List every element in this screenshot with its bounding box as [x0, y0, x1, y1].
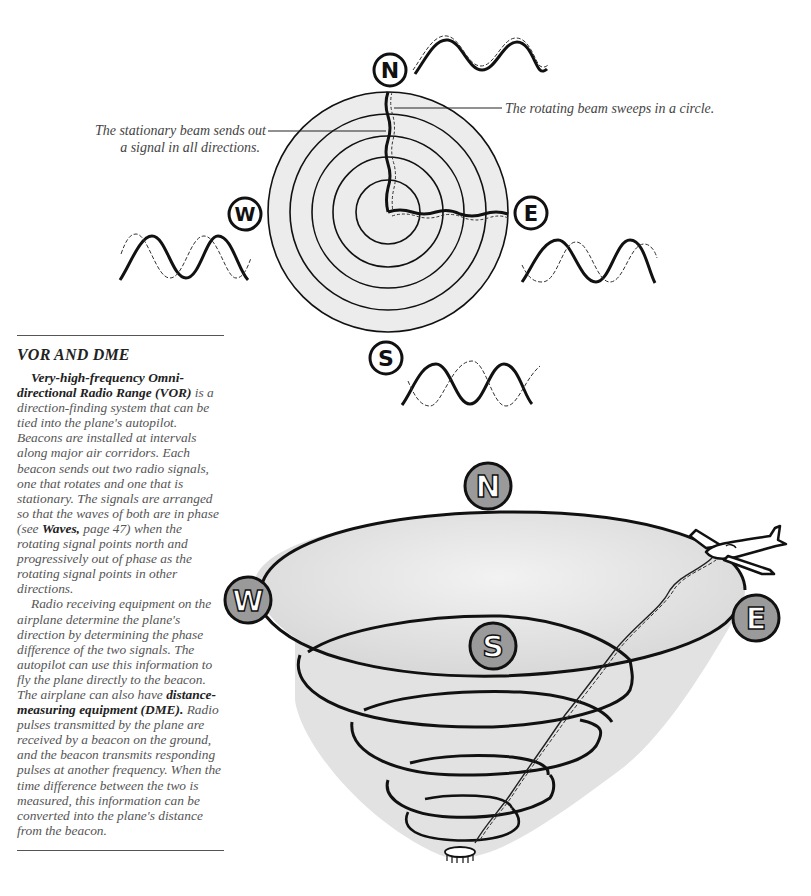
south-wave-out-of-phase: [402, 361, 540, 406]
dme-paragraph: Radio receiving equipment on the airplan…: [17, 596, 224, 838]
cone-south-label: S: [482, 629, 504, 664]
bottom-rule: [17, 850, 224, 851]
stationary-beam-caption: The stationary beam sends out a signal i…: [40, 122, 266, 156]
east-wave-out-of-phase: [522, 240, 657, 283]
west-wave-out-of-phase: [120, 234, 251, 280]
waves-reference: Waves,: [42, 521, 80, 536]
vor-dme-sidebar: VOR AND DME Very-high-frequency Omni-dir…: [17, 335, 224, 851]
north-wave-in-phase: [413, 36, 548, 74]
sidebar-heading: VOR AND DME: [17, 346, 224, 364]
cone-east-label: E: [746, 601, 767, 636]
stationary-caption-line1: The stationary beam sends out: [40, 122, 266, 139]
signal-cone: [254, 512, 745, 858]
beacon-antenna-icon: [445, 847, 475, 863]
cone-north-label: N: [475, 469, 500, 504]
east-label: E: [524, 202, 538, 226]
north-label: N: [381, 58, 399, 83]
cone-west-label: W: [233, 585, 264, 618]
south-label: S: [378, 346, 394, 371]
rotating-beam-caption: The rotating beam sweeps in a circle.: [505, 100, 714, 117]
west-label: W: [235, 203, 256, 225]
vor-term: Very-high-frequency Omni-directional Rad…: [17, 370, 191, 400]
vor-paragraph: Very-high-frequency Omni-directional Rad…: [17, 370, 224, 596]
stationary-caption-line2: a signal in all directions.: [40, 139, 260, 156]
top-rule: [17, 335, 224, 336]
